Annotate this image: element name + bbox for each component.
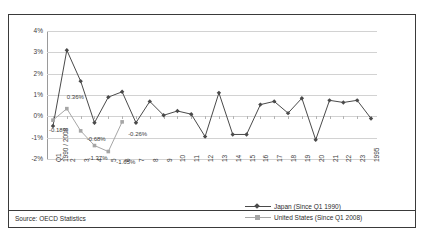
x-tick-label: 14 bbox=[236, 155, 243, 162]
x-tick-label: 12 bbox=[208, 155, 215, 162]
data-point-marker bbox=[79, 129, 83, 133]
y-tick-label: -1% bbox=[13, 135, 43, 142]
data-point-marker bbox=[120, 120, 124, 124]
x-tick-label-sub: 1990 / 2008 bbox=[63, 128, 70, 162]
data-label: -0.68% bbox=[87, 136, 106, 142]
x-tick-label: 7 bbox=[139, 158, 146, 162]
x-tick-label: 22 bbox=[346, 155, 353, 162]
legend-label: Japan (Since Q1 1990) bbox=[274, 203, 341, 210]
data-point-marker bbox=[217, 91, 221, 95]
data-point-marker bbox=[327, 98, 331, 102]
plot-area: -2%-1%0%1%2%3%4% -0.18%0.36%-0.68%-1.37%… bbox=[47, 31, 377, 159]
x-tick-label: 9 bbox=[167, 158, 174, 162]
x-tick-label: 5 bbox=[111, 158, 118, 162]
x-tick-label: 21 bbox=[333, 155, 340, 162]
x-tick-label: 4 bbox=[97, 158, 104, 162]
x-tick-label: 16 bbox=[263, 155, 270, 162]
data-label: -0.26% bbox=[128, 131, 147, 137]
data-point-marker bbox=[175, 109, 179, 113]
data-point-marker bbox=[203, 134, 207, 138]
y-tick-label: 4% bbox=[13, 28, 43, 35]
data-point-marker bbox=[244, 132, 248, 136]
x-tick-label: 18 bbox=[291, 155, 298, 162]
data-point-marker bbox=[313, 138, 317, 142]
source-bar: Source: OECD Statistics bbox=[9, 210, 415, 227]
x-tick-label: 20 bbox=[319, 155, 326, 162]
y-tick-label: 1% bbox=[13, 92, 43, 99]
data-label: 0.36% bbox=[67, 94, 84, 100]
x-tick-label: 10 bbox=[180, 155, 187, 162]
data-point-marker bbox=[93, 144, 97, 148]
x-tick-label: 17 bbox=[277, 155, 284, 162]
x-tick-label: 3 bbox=[84, 158, 91, 162]
x-tick-label: 19 bbox=[305, 155, 312, 162]
data-point-marker bbox=[189, 112, 193, 116]
data-point-marker bbox=[341, 100, 345, 104]
x-tick-label: 8 bbox=[153, 158, 160, 162]
data-point-marker bbox=[65, 107, 69, 111]
data-point-marker bbox=[120, 90, 124, 94]
x-tick-label: 15 bbox=[250, 155, 257, 162]
data-point-marker bbox=[106, 95, 110, 99]
data-point-marker bbox=[92, 121, 96, 125]
data-point-marker bbox=[51, 118, 55, 122]
chart-frame: -2%-1%0%1%2%3%4% -0.18%0.36%-0.68%-1.37%… bbox=[8, 14, 416, 228]
data-point-marker bbox=[258, 102, 262, 106]
data-point-marker bbox=[231, 132, 235, 136]
data-point-marker bbox=[65, 48, 69, 52]
series-line bbox=[53, 50, 371, 140]
source-note: Source: OECD Statistics bbox=[15, 215, 86, 222]
y-tick-label: -2% bbox=[13, 156, 43, 163]
x-tick-label: 1995 bbox=[374, 148, 381, 162]
x-tick-label: 2 bbox=[70, 158, 77, 162]
y-tick-label: 3% bbox=[13, 49, 43, 56]
y-tick-label: 0% bbox=[13, 113, 43, 120]
x-tick-label: 13 bbox=[222, 155, 229, 162]
y-tick-label: 2% bbox=[13, 71, 43, 78]
x-tick-label: 6 bbox=[125, 158, 132, 162]
x-tick-label: 11 bbox=[194, 155, 201, 162]
data-point-marker bbox=[78, 79, 82, 83]
x-tick-label: 23 bbox=[360, 155, 367, 162]
data-point-marker bbox=[107, 150, 111, 154]
